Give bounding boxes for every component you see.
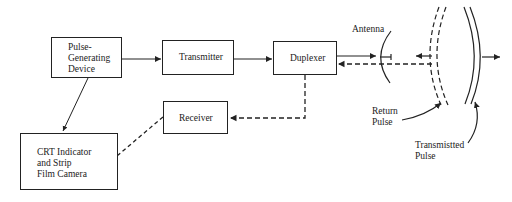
pulse-generating-device-block: Pulse- Generating Device	[51, 37, 122, 78]
receiver-label: Receiver	[179, 113, 213, 124]
duplexer-label: Duplexer	[290, 53, 325, 64]
transmitted-pulse-callout	[468, 102, 477, 143]
pulse-generating-device-label: Pulse- Generating Device	[68, 42, 110, 75]
return-pulse-callout	[402, 103, 441, 120]
arrow-pulse-to-crt	[63, 78, 88, 131]
crt-indicator-block: CRT Indicator and Strip Film Camera	[20, 133, 118, 190]
transmitter-block: Transmitter	[162, 40, 234, 75]
receiver-block: Receiver	[163, 101, 228, 134]
return-pulse-arc-inner	[437, 7, 448, 105]
antenna-label: Antenna	[352, 24, 384, 35]
duplexer-block: Duplexer	[273, 41, 337, 75]
crt-indicator-label: CRT Indicator and Strip Film Camera	[37, 147, 91, 180]
arrow-receiver-to-crt	[111, 117, 163, 161]
radar-block-diagram: Pulse- Generating Device Transmitter Dup…	[0, 0, 512, 202]
transmitted-pulse-label: Transmistted Pulse	[415, 140, 464, 162]
arrow-duplexer-to-receiver	[230, 75, 305, 118]
transmitted-pulse-arc-outer	[470, 7, 480, 104]
transmitter-label: Transmitter	[179, 52, 223, 63]
transmitted-pulse-arc-inner	[464, 7, 474, 104]
return-pulse-label: Return Pulse	[372, 106, 398, 128]
